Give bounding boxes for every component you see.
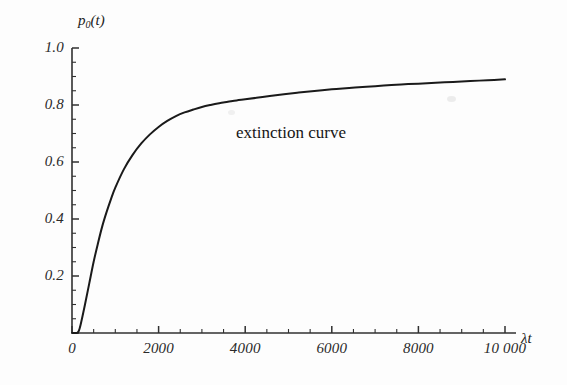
y-tick-label: 1.0 — [18, 39, 64, 56]
y-axis-title: p0(t) — [78, 12, 105, 30]
x-tick-label: 0 — [27, 340, 117, 357]
x-tick-label: 10 000 — [460, 340, 550, 357]
y-tick-label: 0.6 — [18, 153, 64, 170]
x-axis-ticks — [72, 326, 505, 333]
scan-speck — [447, 96, 456, 102]
x-axis-title: λt — [521, 330, 532, 347]
chart-plot-area — [0, 0, 567, 385]
scan-speck — [228, 110, 235, 115]
x-tick-label: 4000 — [200, 340, 290, 357]
x-tick-label: 8000 — [373, 340, 463, 357]
y-axis-title-base: p — [78, 12, 86, 28]
extinction-curve-label: extinction curve — [236, 123, 346, 143]
x-tick-label: 2000 — [114, 340, 204, 357]
x-tick-label: 6000 — [287, 340, 377, 357]
y-tick-label: 0.8 — [18, 96, 64, 113]
extinction-curve-path — [72, 79, 505, 333]
y-axis-ticks — [72, 48, 79, 333]
y-tick-label: 0.2 — [18, 267, 64, 284]
y-axis-title-arg: (t) — [91, 12, 105, 28]
figure-canvas: 0.20.40.60.81.0 0200040006000800010 000 … — [0, 0, 567, 385]
y-tick-label: 0.4 — [18, 210, 64, 227]
